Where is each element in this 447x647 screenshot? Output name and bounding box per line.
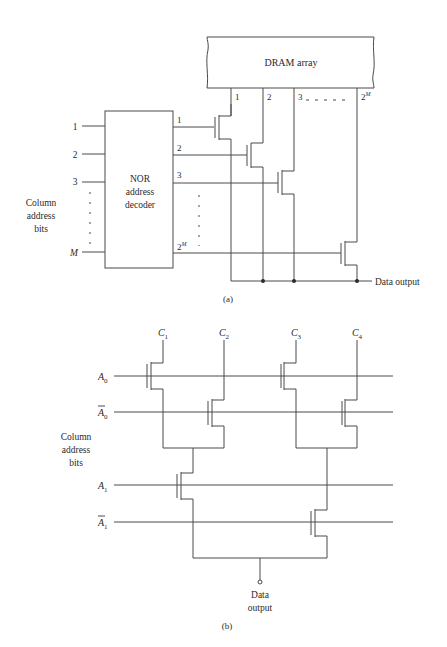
side-label-3: bits [34, 224, 48, 234]
side-label-b-3: bits [69, 458, 83, 468]
transistor-a1 [177, 448, 193, 558]
side-label-1: Column [26, 198, 57, 208]
transistor-c3-a0 [281, 340, 296, 448]
transistor-a1bar [311, 448, 327, 558]
transistor-2m [341, 241, 357, 281]
address-a1-bar-label: A1 [97, 517, 108, 531]
decoder-output-label-1: 1 [177, 115, 182, 125]
decoder-label-1: NOR [130, 174, 151, 184]
dram-column-decoder-figure: DRAM array 1 2 3 2M NOR address decoder … [0, 0, 447, 647]
column-c2-label: C2 [219, 327, 230, 341]
column-c3-label: C3 [291, 327, 302, 341]
part-b-diagram: C1 C2 C3 C4 A0 A0 A1 A1 Column address b… [61, 327, 393, 631]
input-label-2: 2 [73, 150, 78, 160]
transistor-c2-a0bar [208, 340, 224, 448]
decoder-label-3: decoder [125, 200, 156, 210]
data-output-label-b-2: output [248, 603, 273, 613]
dram-array-label: DRAM array [264, 57, 317, 68]
column-c4-label: C4 [352, 327, 363, 341]
address-a1-label: A1 [97, 480, 108, 494]
side-label-b-1: Column [61, 432, 92, 442]
column-label-2: 2 [267, 92, 272, 102]
transistor-3 [278, 170, 294, 281]
decoder-output-label-2: 2 [177, 143, 182, 153]
data-output-label-b-1: Data [251, 590, 270, 600]
input-label-3: 3 [73, 177, 78, 187]
decoder-output-label-2m: 2M [177, 241, 188, 252]
side-label-b-2: address [62, 445, 91, 455]
transistor-2 [247, 143, 263, 281]
caption-a: (a) [223, 294, 233, 304]
side-label-2: address [27, 211, 56, 221]
caption-b: (b) [222, 621, 233, 631]
part-a-diagram: DRAM array 1 2 3 2M NOR address decoder … [26, 37, 420, 304]
output-terminal [258, 580, 262, 584]
input-label-m: M [69, 248, 79, 258]
transistor-c4-a0bar [342, 340, 357, 448]
data-output-label-a: Data output [375, 277, 420, 287]
column-label-1: 1 [235, 92, 240, 102]
input-label-1: 1 [73, 122, 78, 132]
column-c1-label: C1 [158, 327, 169, 341]
transistor-c1-a0 [147, 340, 163, 448]
transistor-1 [215, 104, 231, 281]
address-a0-bar-label: A0 [97, 407, 108, 421]
decoder-label-2: address [126, 187, 155, 197]
column-label-3: 3 [298, 92, 303, 102]
column-label-2m: 2M [361, 91, 372, 102]
decoder-output-label-3: 3 [177, 170, 182, 180]
address-a0-label: A0 [97, 371, 108, 385]
